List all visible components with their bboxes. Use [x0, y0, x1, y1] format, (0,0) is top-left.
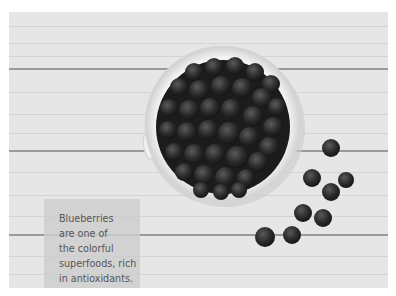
blueberries-photo: Blueberries are one of the colorful supe…: [9, 12, 388, 288]
caption-box: Blueberries are one of the colorful supe…: [44, 199, 140, 288]
caption-text: Blueberries are one of the colorful supe…: [59, 211, 140, 286]
